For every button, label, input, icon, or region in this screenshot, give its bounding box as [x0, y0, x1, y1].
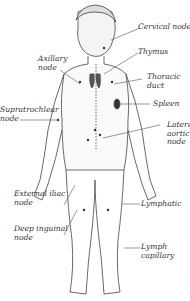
- label-thoracic-duct: Thoracic duct: [147, 73, 181, 90]
- label-external-iliac-node: External iliac node: [14, 190, 65, 207]
- label-thymus: Thymus: [138, 48, 168, 57]
- label-lateral-aortic-node: Latera aortic node: [167, 121, 190, 147]
- label-deep-inguinal-node: Deep inguinal node: [14, 225, 68, 242]
- label-lymph-capillary: Lymph capillary: [141, 243, 174, 260]
- label-spleen: Spleen: [153, 100, 179, 109]
- label-cervical-node: Cervical node: [138, 23, 190, 32]
- label-axillary-node: Axillary node: [38, 55, 68, 72]
- label-lymphatic: Lymphatic: [141, 200, 181, 209]
- label-supratrochlear-node: Supratrochlear node: [0, 106, 59, 123]
